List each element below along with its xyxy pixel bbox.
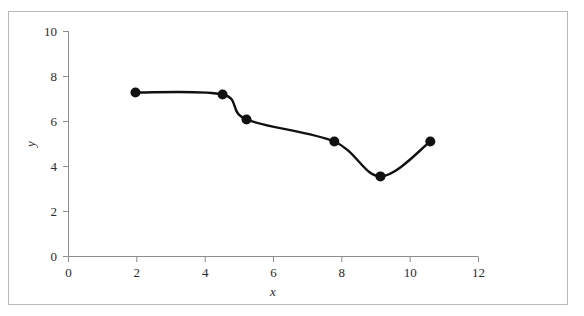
y-tick-label-0: 0 (51, 249, 58, 264)
data-point (375, 171, 385, 181)
y-tick-label-6: 6 (51, 114, 58, 129)
x-axis-tick-labels: 0 2 4 6 8 10 12 (65, 265, 485, 280)
y-axis-tick-labels: 0 2 4 6 8 10 (44, 24, 58, 264)
data-markers-series-1 (130, 87, 435, 181)
data-point (130, 87, 140, 97)
x-tick-label-4: 4 (202, 265, 209, 280)
y-tick-label-8: 8 (51, 69, 58, 84)
chart-canvas: 0 2 4 6 8 10 0 2 4 6 8 10 12 y x (0, 0, 584, 316)
x-tick-label-10: 10 (404, 265, 417, 280)
data-point (242, 114, 252, 124)
x-axis-ticks (69, 257, 479, 263)
data-line-series-1 (135, 92, 430, 176)
data-point (329, 137, 339, 147)
y-tick-label-10: 10 (44, 24, 57, 39)
data-point (218, 90, 228, 100)
x-tick-label-12: 12 (472, 265, 485, 280)
y-axis-title: y (23, 141, 38, 149)
x-axis-title: x (269, 284, 276, 299)
x-tick-label-8: 8 (339, 265, 346, 280)
data-point (425, 137, 435, 147)
y-tick-label-2: 2 (51, 204, 58, 219)
y-axis-ticks (63, 32, 69, 257)
x-tick-label-6: 6 (270, 265, 277, 280)
y-tick-label-4: 4 (51, 159, 58, 174)
x-tick-label-2: 2 (134, 265, 141, 280)
x-tick-label-0: 0 (65, 265, 72, 280)
